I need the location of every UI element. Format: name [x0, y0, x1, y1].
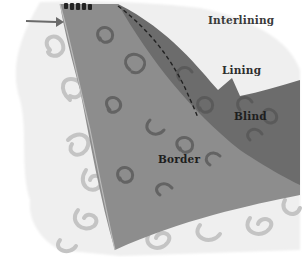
- label-lining: Lining: [222, 64, 261, 76]
- fabric-layer-illustration: Interlining Lining Blind Border: [0, 0, 307, 257]
- label-blind: Blind: [234, 110, 267, 122]
- label-border: Border: [158, 153, 200, 165]
- illustration-svg: [0, 0, 307, 257]
- label-interlining: Interlining: [208, 14, 274, 26]
